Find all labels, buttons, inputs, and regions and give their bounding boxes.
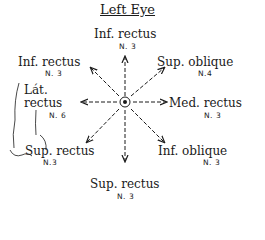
nerve-label-bottom: N. 3: [117, 193, 134, 201]
muscle-label-right: Med. rectus: [169, 97, 242, 109]
muscle-label-lower-right: Inf. oblique: [158, 145, 227, 157]
nerve-label-lower-right: N. 3: [203, 159, 220, 167]
arrow-up-right: [131, 68, 164, 96]
arrow-down-left: [87, 109, 119, 142]
nerve-label-upper-right: N.4: [198, 70, 212, 78]
nerve-label-upper-left: N. 3: [45, 70, 62, 78]
nerve-label-lower-left: N.3: [43, 159, 57, 167]
nerve-label-top: N. 3: [119, 43, 136, 51]
muscle-label-bottom: Sup. rectus: [90, 178, 160, 190]
muscle-label-upper-left: Inf. rectus: [18, 56, 80, 68]
muscle-label-left-line1: Lát.: [24, 84, 48, 96]
arrow-up-left: [91, 68, 119, 96]
muscle-label-lower-left: Sup. rectus: [25, 145, 95, 157]
nerve-label-right: N. 3: [204, 112, 221, 120]
nerve-label-left: N. 6: [49, 112, 66, 120]
muscle-label-left-line2: rectus: [24, 97, 62, 109]
muscle-label-upper-right: Sup. oblique: [157, 56, 233, 68]
muscle-label-top: Inf. rectus: [94, 28, 156, 40]
arrow-down-right: [131, 109, 164, 142]
